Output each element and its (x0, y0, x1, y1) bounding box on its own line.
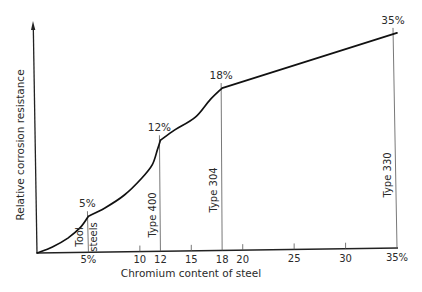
tick-label-5: 5% (80, 254, 96, 265)
tick-label-30: 30 (339, 253, 352, 264)
tick-label-10: 10 (133, 254, 146, 265)
grade-labels: Tool steels Type 400 Type 304 Type 330 (74, 152, 393, 251)
y-axis-arrow-icon (31, 21, 35, 30)
x-axis-title: Chromium content of steel (121, 267, 261, 279)
marker-line (159, 135, 160, 251)
y-axis-line (33, 27, 37, 253)
value-label-35: 35% (381, 14, 404, 26)
grade-label-steels: steels (88, 222, 99, 251)
marker-line (221, 83, 222, 250)
value-label-18: 18% (209, 69, 232, 81)
corrosion-resistance-chart: 5% 10 12 15 18 20 25 30 35% 5% 12% 18% 3… (0, 0, 422, 292)
tick-label-25: 25 (288, 253, 301, 264)
tick-label-35: 35% (386, 252, 408, 263)
corrosion-resistance-curve (37, 33, 397, 253)
value-label-5: 5% (79, 197, 96, 209)
grade-label-type-400: Type 400 (147, 192, 158, 238)
tick-label-12: 12 (154, 254, 167, 265)
x-axis-tick-labels: 5% 10 12 15 18 20 25 30 35% (80, 252, 408, 265)
y-axis (31, 21, 37, 253)
marker-line (393, 28, 397, 248)
value-labels: 5% 12% 18% 35% (79, 14, 405, 209)
grade-label-type-304: Type 304 (208, 167, 219, 213)
tick-label-20: 20 (236, 254, 249, 265)
tick-label-15: 15 (185, 254, 198, 265)
grade-marker-lines (87, 28, 397, 252)
grade-label-type-330: Type 330 (382, 152, 393, 198)
tick-label-18: 18 (216, 254, 229, 265)
y-axis-title: Relative corrosion resistance (14, 69, 26, 220)
value-label-12: 12% (148, 121, 171, 133)
grade-label-tool: Tool (74, 227, 85, 247)
